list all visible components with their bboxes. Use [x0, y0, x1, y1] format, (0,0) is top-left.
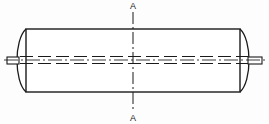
technical-drawing-canvas: A A	[0, 0, 269, 124]
right-shaft-stub	[248, 57, 262, 64]
roller-assembly-drawing: A A	[0, 0, 269, 124]
section-label-bottom: A	[130, 113, 136, 123]
left-shaft-stub	[7, 57, 19, 64]
section-label-top: A	[130, 1, 136, 11]
